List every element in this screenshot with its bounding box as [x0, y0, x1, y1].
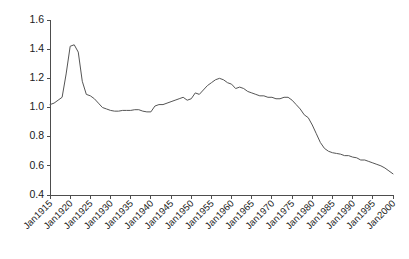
y-tick-label: 1.6 — [29, 13, 44, 25]
chart-canvas: 1.61.41.21.00.80.60.4 Jan1915Jan1920Jan1… — [0, 0, 409, 259]
y-tick-label: 1.0 — [29, 100, 44, 112]
y-tick-label: 0.4 — [29, 188, 44, 200]
data-series-line — [50, 45, 393, 174]
y-tick-label: 1.4 — [29, 42, 44, 54]
x-axis-tick-labels: Jan1915Jan1920Jan1925Jan1930Jan1935Jan19… — [21, 198, 398, 232]
y-tick-label: 0.6 — [29, 159, 44, 171]
y-tick-label: 1.2 — [29, 71, 44, 83]
line-chart: 1.61.41.21.00.80.60.4 Jan1915Jan1920Jan1… — [0, 0, 409, 259]
y-axis-tick-labels: 1.61.41.21.00.80.60.4 — [29, 13, 44, 200]
y-tick-label: 0.8 — [29, 129, 44, 141]
x-axis-tick-marks — [50, 195, 393, 199]
